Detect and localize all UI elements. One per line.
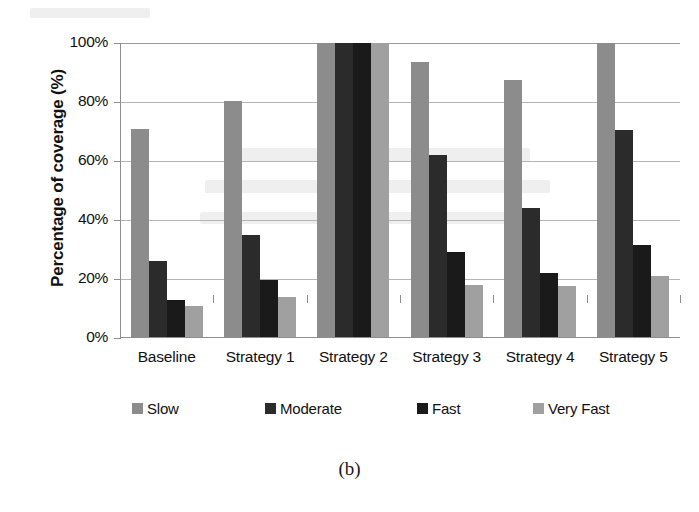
figure-b: Percentage of coverage (%) 0%20%40%60%80… bbox=[0, 0, 699, 512]
legend-item: Moderate bbox=[265, 400, 342, 417]
y-axis-tick-label: 100% bbox=[46, 33, 108, 51]
x-axis-category-label: Strategy 3 bbox=[400, 348, 493, 366]
bar bbox=[149, 261, 167, 338]
x-axis-category-label: Strategy 4 bbox=[493, 348, 586, 366]
bar bbox=[504, 80, 522, 338]
y-axis-tick-label: 20% bbox=[46, 269, 108, 287]
x-axis-category-label: Strategy 1 bbox=[213, 348, 306, 366]
x-axis-tick bbox=[400, 295, 401, 303]
bar bbox=[558, 286, 576, 338]
x-axis-tick bbox=[493, 295, 494, 303]
bar bbox=[224, 101, 242, 338]
y-axis-tick bbox=[114, 338, 121, 339]
legend-label: Slow bbox=[147, 400, 179, 417]
x-axis-tick bbox=[587, 295, 588, 303]
scan-artifact bbox=[30, 8, 150, 18]
x-axis-category-label: Strategy 2 bbox=[307, 348, 400, 366]
bar-group bbox=[588, 43, 681, 338]
bar bbox=[353, 43, 371, 338]
x-axis-category-label: Baseline bbox=[120, 348, 213, 366]
bar bbox=[465, 285, 483, 338]
bar bbox=[615, 130, 633, 338]
y-axis-tick-label: 60% bbox=[46, 151, 108, 169]
y-axis-tick bbox=[114, 220, 121, 221]
y-axis-tick-label: 0% bbox=[46, 328, 108, 346]
legend-item: Fast bbox=[417, 400, 460, 417]
figure-caption: (b) bbox=[0, 458, 699, 480]
legend-swatch-icon bbox=[417, 403, 428, 414]
bar bbox=[131, 129, 149, 338]
bar bbox=[278, 297, 296, 338]
y-axis-tick-label: 40% bbox=[46, 210, 108, 228]
bar-group bbox=[308, 43, 401, 338]
x-axis-tick bbox=[213, 295, 214, 303]
legend-item: Slow bbox=[132, 400, 179, 417]
bar bbox=[597, 43, 615, 338]
legend-label: Moderate bbox=[280, 400, 342, 417]
x-axis-tick bbox=[680, 295, 681, 303]
bar-group bbox=[121, 43, 214, 338]
legend-swatch-icon bbox=[132, 403, 143, 414]
y-axis-tick bbox=[114, 43, 121, 44]
bar bbox=[522, 208, 540, 338]
bar bbox=[167, 300, 185, 338]
legend-label: Very Fast bbox=[548, 400, 610, 417]
bar bbox=[242, 235, 260, 338]
legend-swatch-icon bbox=[533, 403, 544, 414]
bar bbox=[371, 43, 389, 338]
bar bbox=[633, 245, 651, 338]
x-axis-category-label: Strategy 5 bbox=[587, 348, 680, 366]
bar bbox=[429, 155, 447, 338]
bar bbox=[260, 280, 278, 338]
bar bbox=[185, 306, 203, 338]
bar-group bbox=[401, 43, 494, 338]
x-axis-tick bbox=[307, 295, 308, 303]
x-axis-tick bbox=[120, 295, 121, 303]
y-axis-tick bbox=[114, 161, 121, 162]
y-axis-tick bbox=[114, 102, 121, 103]
bar bbox=[335, 43, 353, 338]
bar-group bbox=[214, 43, 307, 338]
x-axis-line bbox=[121, 337, 680, 338]
plot-area bbox=[120, 43, 680, 338]
bar-group bbox=[494, 43, 587, 338]
bar bbox=[447, 252, 465, 338]
bar bbox=[411, 62, 429, 338]
legend-swatch-icon bbox=[265, 403, 276, 414]
y-axis-tick-label: 80% bbox=[46, 92, 108, 110]
bar bbox=[540, 273, 558, 338]
y-axis-tick bbox=[114, 279, 121, 280]
legend-label: Fast bbox=[432, 400, 460, 417]
legend-item: Very Fast bbox=[533, 400, 610, 417]
bar bbox=[651, 276, 669, 338]
bar bbox=[317, 43, 335, 338]
legend: SlowModerateFastVery Fast bbox=[120, 400, 680, 422]
